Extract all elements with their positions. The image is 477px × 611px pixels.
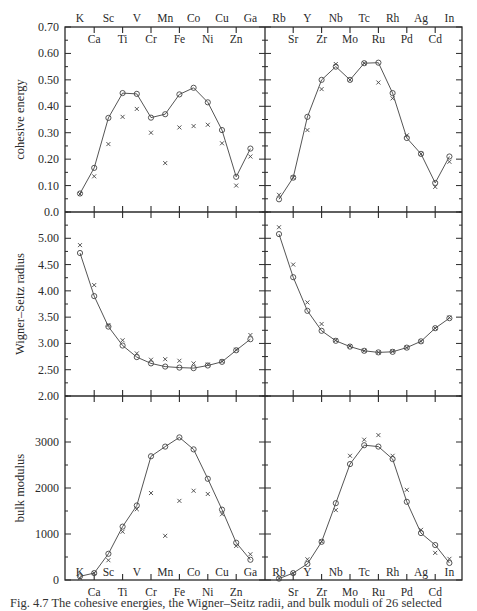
- experimental-point: [248, 552, 252, 556]
- calculated-line: [80, 88, 250, 194]
- element-label: Cd: [428, 33, 442, 45]
- experimental-point: [320, 87, 324, 91]
- element-label: Sc: [103, 12, 115, 24]
- experimental-point: [106, 558, 110, 562]
- experimental-point: [305, 557, 309, 561]
- element-label: Fe: [174, 33, 186, 45]
- panel-lower-left: [77, 435, 253, 580]
- element-label: Sc: [103, 566, 115, 578]
- experimental-point: [177, 499, 181, 503]
- panel-upper-left: [77, 85, 253, 196]
- experimental-point: [121, 115, 125, 119]
- calculated-line: [279, 445, 449, 578]
- experimental-point: [334, 508, 338, 512]
- experimental-point: [419, 339, 423, 343]
- element-label: Ca: [88, 33, 101, 45]
- element-label: Y: [303, 566, 312, 578]
- experimental-point: [78, 243, 82, 247]
- panel-lower-right: [276, 433, 452, 581]
- y-tick-label: 2000: [35, 481, 59, 495]
- calculated-line: [80, 437, 250, 576]
- experimental-point: [405, 488, 409, 492]
- experimental-point: [192, 489, 196, 493]
- y-tick-label: 3.00: [38, 336, 59, 350]
- experimental-point: [291, 263, 295, 267]
- figure-caption: Fig. 4.7 The cohesive energies, the Wign…: [10, 596, 477, 611]
- experimental-point: [391, 454, 395, 458]
- y-tick-label: 0.50: [38, 73, 59, 87]
- y-tick-label: 0.70: [38, 20, 59, 34]
- element-label: Tc: [359, 12, 370, 24]
- y-tick-label: 5.00: [38, 231, 59, 245]
- experimental-point: [177, 359, 181, 363]
- element-label: Y: [303, 12, 312, 24]
- element-label: Ga: [244, 12, 257, 24]
- experimental-point: [234, 184, 238, 188]
- element-label: Co: [187, 566, 201, 578]
- y-tick-label: 0.30: [38, 126, 59, 140]
- experimental-point: [149, 491, 153, 495]
- calculated-point: [276, 197, 281, 202]
- experimental-point: [206, 123, 210, 127]
- element-label: In: [445, 12, 455, 24]
- experimental-point: [163, 357, 167, 361]
- element-label: Ag: [414, 566, 428, 579]
- experimental-point: [362, 438, 366, 442]
- y-tick-label: 4.50: [38, 258, 59, 272]
- element-label: Nb: [329, 566, 343, 578]
- calculated-point: [248, 146, 253, 151]
- experimental-point: [121, 530, 125, 534]
- element-label: In: [445, 566, 455, 578]
- experimental-point: [177, 125, 181, 129]
- element-label: Tc: [359, 566, 370, 578]
- element-label: V: [133, 12, 142, 24]
- experimental-point: [277, 193, 281, 197]
- y-tick-label: 3000: [35, 435, 59, 449]
- element-label: Zr: [316, 33, 327, 45]
- element-label: Cu: [215, 566, 229, 578]
- y-axis-title: Wigner–Seitz radius: [13, 253, 27, 355]
- experimental-point: [135, 107, 139, 111]
- element-label: Ti: [118, 33, 128, 45]
- experimental-point: [206, 492, 210, 496]
- experimental-point: [447, 316, 451, 320]
- experimental-point: [220, 141, 224, 145]
- element-label: Rb: [272, 12, 286, 24]
- experimental-point: [192, 124, 196, 128]
- element-label: Pd: [401, 33, 413, 45]
- y-tick-label: 0: [53, 573, 59, 587]
- experimental-point: [447, 160, 451, 164]
- y-tick-label: 2.50: [38, 363, 59, 377]
- experimental-point: [348, 454, 352, 458]
- panel-middle-left: [77, 243, 253, 371]
- element-label: Ru: [372, 33, 386, 45]
- y-tick-label: 0.10: [38, 179, 59, 193]
- element-label: Mo: [342, 33, 358, 45]
- element-label: Ag: [414, 12, 428, 25]
- y-tick-label: 4.00: [38, 284, 59, 298]
- panel-upper-right: [276, 60, 452, 202]
- element-label: K: [76, 12, 85, 24]
- calculated-line: [279, 234, 449, 352]
- experimental-point: [433, 326, 437, 330]
- experimental-point: [305, 128, 309, 132]
- y-tick-label: 2.00: [38, 389, 59, 403]
- element-label: Co: [187, 12, 201, 24]
- experimental-point: [277, 225, 281, 229]
- element-label: Cr: [145, 33, 157, 45]
- element-label: Rh: [386, 12, 400, 24]
- experimental-point: [92, 174, 96, 178]
- experimental-point: [220, 512, 224, 516]
- experimental-point: [320, 539, 324, 543]
- experimental-point: [106, 142, 110, 146]
- element-label: Mn: [157, 566, 173, 578]
- y-tick-label: 3.50: [38, 310, 59, 324]
- experimental-point: [320, 322, 324, 326]
- element-label: V: [133, 566, 142, 578]
- element-label: Nb: [329, 12, 343, 24]
- y-tick-label: 1000: [35, 527, 59, 541]
- y-tick-label: 0.40: [38, 99, 59, 113]
- experimental-point: [234, 544, 238, 548]
- y-axis-title: bulk modulus: [13, 454, 27, 523]
- element-label: Cu: [215, 12, 229, 24]
